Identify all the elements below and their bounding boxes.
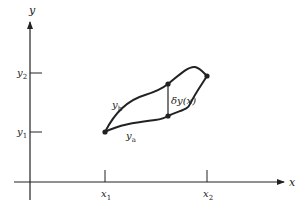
yb-label: yb bbox=[111, 99, 123, 113]
y2-label: y2 bbox=[16, 67, 27, 81]
end-point bbox=[204, 73, 209, 78]
ya-point bbox=[165, 113, 170, 118]
variation-diagram: y x y2 y1 x1 x2 yb ya δy(x) bbox=[0, 0, 306, 216]
variation-label: δy(x) bbox=[171, 95, 196, 106]
start-point bbox=[102, 129, 107, 134]
yb-point bbox=[165, 81, 170, 86]
y-axis-label: y bbox=[28, 4, 36, 17]
ya-label: ya bbox=[125, 130, 136, 144]
y1-label: y1 bbox=[16, 126, 27, 140]
x1-label: x1 bbox=[101, 188, 111, 202]
x2-label: x2 bbox=[203, 188, 213, 202]
x-axis-label: x bbox=[289, 176, 296, 189]
